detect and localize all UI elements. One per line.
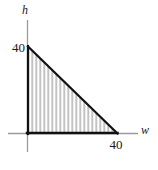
y-axis-tick-label-40: 40 [8,41,25,54]
triangle-region-plot [0,0,158,170]
y-axis-label: h [22,4,28,16]
figure-container: h w 40 40 [0,0,158,170]
x-axis-tick-label-40: 40 [105,138,127,151]
x-axis-label: w [141,124,149,136]
